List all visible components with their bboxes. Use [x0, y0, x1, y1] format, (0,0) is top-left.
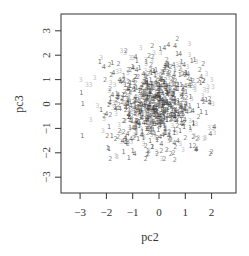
data-point-label: 2 — [202, 98, 206, 106]
data-point-label: 2 — [197, 113, 201, 121]
data-point-label: 3 — [163, 122, 167, 130]
data-point-label: 1 — [121, 148, 125, 156]
data-point-label: 2 — [121, 76, 125, 84]
data-point-label: 3 — [114, 110, 118, 118]
data-point-label: 1 — [172, 129, 176, 137]
y-tick-label: 3 — [40, 28, 52, 34]
data-point-label: 2 — [124, 47, 128, 55]
data-point-label: 2 — [134, 73, 138, 81]
data-point-label: 4 — [162, 44, 166, 52]
data-point-label: 2 — [150, 42, 154, 50]
data-point-label: 2 — [155, 150, 159, 158]
data-point-label: 1 — [121, 91, 125, 99]
data-point-label: 4 — [159, 140, 163, 148]
data-point-label: 4 — [180, 91, 184, 99]
data-point-label: 3 — [93, 74, 97, 82]
data-point-label: 1 — [138, 108, 142, 116]
data-point-label: 4 — [148, 112, 152, 120]
data-point-label: 3 — [118, 67, 122, 75]
data-point-label: 3 — [181, 146, 185, 154]
data-point-label: 3 — [114, 152, 118, 160]
data-point-label: 1 — [181, 110, 185, 118]
data-point-label: 1 — [146, 83, 150, 91]
data-point-label: 4 — [208, 99, 212, 107]
data-point-label: 2 — [145, 151, 149, 159]
data-point-label: 2 — [173, 156, 177, 164]
data-point-label: 2 — [103, 76, 107, 84]
data-point-label: 3 — [202, 86, 206, 94]
data-point-label: 1 — [175, 50, 179, 58]
data-point-label: 2 — [191, 77, 195, 85]
data-point-label: 2 — [146, 70, 150, 78]
data-point-label: 2 — [108, 155, 112, 163]
data-point-label: 4 — [108, 99, 112, 107]
x-tick-label: 0 — [156, 206, 162, 218]
data-point-label: 4 — [168, 102, 172, 110]
data-point-label: 4 — [110, 91, 114, 99]
data-point-label: 3 — [149, 131, 153, 139]
data-point-label: 1 — [128, 88, 132, 96]
x-tick-label: −1 — [127, 206, 139, 218]
x-tick-label: 2 — [209, 206, 215, 218]
data-point-label: 4 — [194, 145, 198, 153]
data-point-label: 2 — [108, 111, 112, 119]
data-point-label: 1 — [132, 85, 136, 93]
data-point-label: 2 — [109, 71, 113, 79]
data-point-label: 2 — [169, 150, 173, 158]
data-point-label: 4 — [208, 130, 212, 138]
y-tick-label: 0 — [40, 101, 52, 107]
data-points: 2341433343113433243331133233342332434113… — [78, 35, 216, 164]
data-point-label: 4 — [102, 63, 106, 71]
data-point-label: 3 — [126, 69, 130, 77]
data-point-label: 4 — [134, 53, 138, 61]
data-point-label: 2 — [150, 143, 154, 151]
data-point-label: 4 — [141, 119, 145, 127]
data-point-label: 4 — [185, 108, 189, 116]
data-point-label: 3 — [211, 83, 215, 91]
data-point-label: 2 — [183, 134, 187, 142]
data-point-label: 3 — [143, 105, 147, 113]
data-point-label: 2 — [156, 119, 160, 127]
data-point-label: 1 — [98, 58, 102, 66]
data-point-label: 4 — [172, 71, 176, 79]
data-point-label: 4 — [171, 91, 175, 99]
data-point-label: 2 — [132, 134, 136, 142]
y-tick-label: −2 — [40, 147, 52, 159]
data-point-label: 3 — [178, 60, 182, 68]
data-point-label: 1 — [107, 123, 111, 131]
data-point-label: 3 — [152, 81, 156, 89]
y-axis-title: pc3 — [12, 95, 26, 112]
y-tick-label: 2 — [40, 52, 52, 58]
data-point-label: 3 — [89, 81, 93, 89]
data-point-label: 2 — [158, 83, 162, 91]
data-point-label: 1 — [204, 109, 208, 117]
data-point-label: 3 — [192, 132, 196, 140]
data-point-label: 1 — [126, 100, 130, 108]
data-point-label: 2 — [102, 112, 106, 120]
data-point-label: 3 — [78, 76, 82, 84]
data-point-label: 3 — [185, 63, 189, 71]
data-point-label: 3 — [89, 116, 93, 124]
data-point-label: 1 — [166, 61, 170, 69]
data-point-label: 2 — [134, 97, 138, 105]
data-point-label: 3 — [167, 71, 171, 79]
data-point-label: 3 — [85, 81, 89, 89]
data-point-label: 2 — [116, 60, 120, 68]
data-point-label: 2 — [154, 93, 158, 101]
data-point-label: 3 — [108, 79, 112, 87]
data-point-label: 3 — [170, 80, 174, 88]
data-point-label: 4 — [166, 41, 170, 49]
data-point-label: 1 — [81, 100, 85, 108]
data-point-label: 2 — [147, 52, 151, 60]
x-tick-label: −3 — [74, 206, 86, 218]
y-tick-label: −3 — [40, 171, 52, 183]
data-point-label: 2 — [173, 143, 177, 151]
data-point-label: 1 — [80, 132, 84, 140]
data-point-label: 2 — [162, 155, 166, 163]
data-point-label: 1 — [182, 123, 186, 131]
data-point-label: 2 — [108, 61, 112, 69]
data-point-label: 3 — [187, 40, 191, 48]
data-point-label: 1 — [145, 93, 149, 101]
data-point-label: 3 — [101, 127, 105, 135]
data-point-label: 3 — [202, 135, 206, 143]
